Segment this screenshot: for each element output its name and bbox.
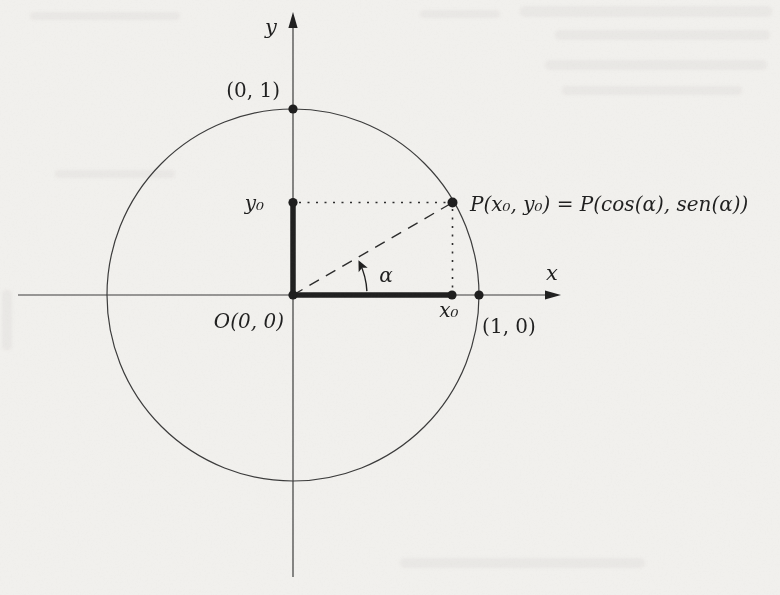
radius-dashed-line bbox=[293, 204, 450, 295]
point-right bbox=[474, 290, 483, 299]
angle-label: α bbox=[379, 263, 393, 287]
x0-label: x₀ bbox=[439, 298, 458, 322]
angle-arc bbox=[360, 263, 367, 292]
x-axis-arrowhead bbox=[545, 290, 561, 299]
x-axis-label: x bbox=[546, 261, 558, 285]
y-axis-arrowhead bbox=[288, 12, 297, 28]
scanned-page: y x (0, 1) y₀ O(0, 0) x₀ (1, 0) α P(x₀, … bbox=[0, 0, 780, 595]
top-point-label: (0, 1) bbox=[226, 78, 280, 102]
point-p bbox=[448, 198, 458, 208]
point-top bbox=[288, 104, 297, 113]
point-y0 bbox=[288, 198, 297, 207]
right-point-label: (1, 0) bbox=[482, 314, 536, 338]
unit-circle-figure: y x (0, 1) y₀ O(0, 0) x₀ (1, 0) α P(x₀, … bbox=[0, 0, 780, 595]
y0-label: y₀ bbox=[244, 191, 264, 215]
origin-label: O(0, 0) bbox=[214, 309, 284, 333]
scan-bleedthrough-artifacts bbox=[2, 6, 772, 568]
point-origin bbox=[288, 290, 297, 299]
y-axis-label: y bbox=[264, 15, 278, 39]
point-p-label: P(x₀, y₀) = P(cos(α), sen(α)) bbox=[469, 192, 748, 216]
